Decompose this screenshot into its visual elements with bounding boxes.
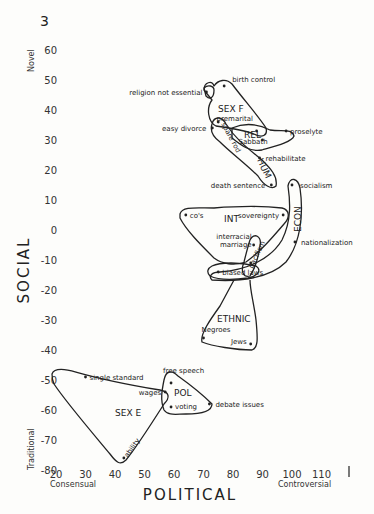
- x-tick-label: 110: [312, 469, 331, 480]
- data-point: [184, 214, 187, 217]
- data-point: [205, 91, 208, 94]
- data-point: [211, 127, 214, 130]
- point-label: premarital: [217, 115, 253, 123]
- point-label: birth control: [232, 76, 275, 84]
- data-point: [84, 376, 87, 379]
- x-tick-label: 30: [79, 469, 92, 480]
- point-label: death sentence: [211, 182, 265, 190]
- x-tick-label: 50: [138, 469, 151, 480]
- y-tick-label: -20: [41, 285, 57, 296]
- point-label: socialism: [300, 182, 333, 190]
- data-point: [202, 337, 205, 340]
- chart: 3 6050403020100-10-20-30-40-50-60-70-80 …: [0, 0, 374, 514]
- point-label: Jews: [230, 338, 247, 346]
- data-point: [285, 130, 288, 133]
- y-tick-label: -60: [41, 405, 57, 416]
- data-point: [258, 157, 261, 160]
- y-tick-label: -40: [41, 345, 57, 356]
- group-label-sex-f: SEX F: [218, 104, 244, 114]
- point-label: single standard: [90, 374, 144, 382]
- x-tick-label: 20: [50, 469, 63, 480]
- data-point: [164, 391, 167, 394]
- data-point: [170, 382, 173, 385]
- group-label-pol: POL: [174, 388, 192, 398]
- point-label: nationalization: [301, 239, 353, 247]
- point-label: biased laws: [222, 269, 263, 277]
- point-label: religion not essential: [129, 89, 202, 97]
- data-point: [294, 241, 297, 244]
- data-point: [217, 271, 220, 274]
- x-tick-label: 40: [109, 469, 122, 480]
- y-tick-label: 20: [44, 165, 57, 176]
- data-point: [252, 244, 255, 247]
- point-label: Negroes: [202, 326, 231, 334]
- group-label-ethnic: ETHNIC: [217, 314, 251, 324]
- group-label-sex-e: SEX E: [115, 408, 141, 418]
- point-label: proselyte: [290, 128, 323, 136]
- y-tick-label: -70: [41, 435, 57, 446]
- y-tick-label: 50: [44, 75, 57, 86]
- data-point: [291, 184, 294, 187]
- x-tick-label: 90: [256, 469, 269, 480]
- x-tick-label: 80: [227, 469, 240, 480]
- point-label: Sabbath: [239, 138, 268, 146]
- x-tick-label: 100: [282, 469, 301, 480]
- y-tick-label: 60: [44, 45, 57, 56]
- point-label: sovereignty: [238, 212, 279, 220]
- point-label: rehabilitate: [266, 155, 306, 163]
- data-point: [282, 214, 285, 217]
- y-low-label: Traditional: [27, 428, 36, 471]
- point-label: co's: [190, 212, 204, 220]
- y-axis-title: SOCIAL: [15, 237, 33, 304]
- point-labels: religion not essentialbirth controlprema…: [90, 76, 353, 459]
- point-label: debate issues: [215, 401, 264, 409]
- point-label: easy divorce: [162, 125, 206, 133]
- y-tick-label: 40: [44, 105, 57, 116]
- point-label: ability: [123, 437, 142, 459]
- hull-sex-e: [52, 369, 168, 463]
- x-tick-label: 70: [197, 469, 210, 480]
- data-point: [255, 130, 258, 133]
- point-label: voting: [175, 403, 197, 411]
- x-low-label: Consensual: [50, 480, 96, 489]
- data-point: [170, 406, 173, 409]
- data-point: [208, 403, 211, 406]
- point-label: free speech: [163, 367, 204, 375]
- data-point: [223, 85, 226, 88]
- group-label-econ: ECON: [293, 206, 303, 232]
- data-point: [249, 343, 252, 346]
- x-high-label: Controversial: [278, 480, 331, 489]
- y-high-label: Novel: [27, 49, 36, 72]
- figure-number: 3: [40, 13, 49, 29]
- y-tick-label: 10: [44, 195, 57, 206]
- data-point: [270, 184, 273, 187]
- y-tick-label: 30: [44, 135, 57, 146]
- x-axis-ticks: 2030405060708090100110: [50, 469, 331, 480]
- y-axis-ticks: 6050403020100-10-20-30-40-50-60-70-80: [41, 45, 57, 476]
- x-tick-label: 60: [168, 469, 181, 480]
- x-axis-title: POLITICAL: [143, 486, 237, 504]
- y-tick-label: 0: [51, 225, 57, 236]
- point-label: wages: [139, 389, 162, 397]
- y-tick-label: -30: [41, 315, 57, 326]
- point-label: interracialmarriage: [216, 233, 251, 249]
- y-tick-label: -10: [41, 255, 57, 266]
